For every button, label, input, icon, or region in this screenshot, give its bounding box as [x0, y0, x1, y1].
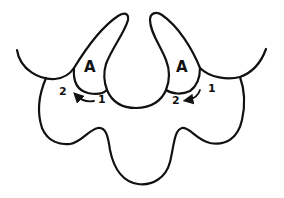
left-outer-arc [17, 50, 74, 79]
diagram-canvas: A A 1 2 1 2 [0, 0, 284, 198]
right-region-label: A [176, 58, 188, 76]
left-start-label: 1 [98, 93, 106, 106]
right-start-label: 1 [208, 82, 216, 95]
left-region-label: A [84, 58, 96, 76]
right-end-label: 2 [172, 94, 180, 107]
right-outer-arc [200, 49, 266, 78]
center-bowl [107, 90, 166, 108]
left-end-label: 2 [59, 85, 67, 98]
left-rotation-arrow [77, 96, 94, 101]
left-horn [74, 14, 128, 90]
right-horn [150, 13, 200, 90]
